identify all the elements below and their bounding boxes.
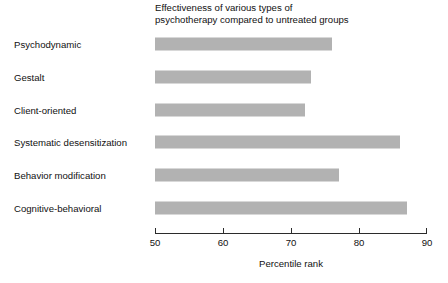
bar-fill [155,136,400,149]
bar-row: Gestalt [0,61,448,94]
bar-category-label: Systematic desensitization [14,137,127,148]
x-axis-title: Percentile rank [155,258,427,269]
bar-category-label: Cognitive-behavioral [14,202,101,213]
bar-track [155,38,427,51]
x-axis-tick [155,228,156,234]
chart-title: Effectiveness of various types of psycho… [155,2,445,27]
bar-category-label: Gestalt [14,71,44,82]
x-axis-tick [223,228,224,234]
x-axis-tick-label: 70 [286,237,297,248]
bar-category-label: Client-oriented [14,104,76,115]
x-axis-tick [291,228,292,234]
plot-area: PsychodynamicGestaltClient-orientedSyste… [0,28,448,224]
bar-chart-figure: Effectiveness of various types of psycho… [0,0,448,283]
x-axis-tick [426,228,427,234]
x-axis-line: 5060708090 [155,233,427,234]
x-axis-tick-label: 60 [218,237,229,248]
bar-row: Systematic desensitization [0,126,448,159]
x-axis-tick-label: 80 [354,237,365,248]
bar-track [155,136,427,149]
bar-track [155,103,427,116]
bar-row: Cognitive-behavioral [0,191,448,224]
bar-row: Client-oriented [0,93,448,126]
bar-row: Psychodynamic [0,28,448,61]
x-axis-tick [359,228,360,234]
bar-fill [155,38,332,51]
bar-fill [155,168,339,181]
bar-track [155,70,427,83]
bar-fill [155,103,305,116]
bar-row: Behavior modification [0,159,448,192]
bar-track [155,168,427,181]
bar-fill [155,201,407,214]
x-axis-tick-label: 90 [422,237,433,248]
x-axis-tick-label: 50 [150,237,161,248]
bar-fill [155,70,311,83]
bar-category-label: Psychodynamic [14,39,81,50]
bar-track [155,201,427,214]
bar-category-label: Behavior modification [14,169,106,180]
